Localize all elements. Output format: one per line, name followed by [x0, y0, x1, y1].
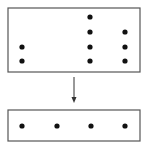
transformation-diagram	[0, 0, 150, 147]
dot	[87, 44, 92, 49]
dot	[87, 58, 92, 63]
bottom-box	[8, 110, 140, 141]
dot	[122, 44, 127, 49]
top-box-dots	[19, 14, 127, 63]
dot	[19, 44, 24, 49]
dot	[88, 123, 93, 128]
dot	[87, 29, 92, 34]
dot	[87, 14, 92, 19]
bottom-box-dots	[19, 123, 127, 128]
dot	[122, 123, 127, 128]
dot	[19, 123, 24, 128]
dot	[122, 29, 127, 34]
dot	[19, 58, 24, 63]
dot	[122, 58, 127, 63]
dot	[54, 123, 59, 128]
top-box	[8, 8, 140, 72]
down-arrow-icon	[72, 77, 77, 103]
